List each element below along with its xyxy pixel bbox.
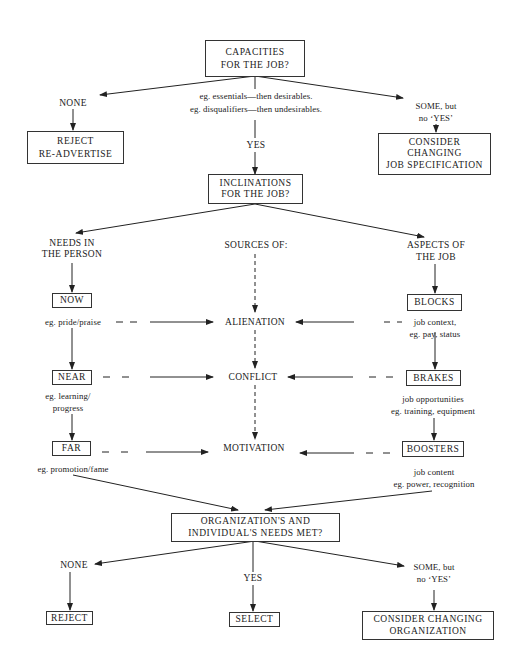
capacities-line1: CAPACITIES bbox=[206, 46, 304, 59]
aspects-header-line1: ASPECTS OF bbox=[407, 240, 465, 252]
reject-label: REJECT bbox=[28, 135, 123, 148]
aspect-boosters-example-2: eg. power, recognition bbox=[394, 478, 475, 491]
aspect-brakes-example-1: job opportunities bbox=[402, 393, 464, 406]
criteria-line1: eg. essentials—then desirables. bbox=[199, 90, 312, 103]
aspect-blocks-example-2: eg. pay, status bbox=[410, 328, 461, 341]
source-motivation: MOTIVATION bbox=[223, 442, 284, 455]
need-now-example: eg. pride/praise bbox=[45, 316, 101, 329]
need-near-example-2: progress bbox=[53, 402, 84, 415]
capacities-line2: FOR THE JOB? bbox=[206, 59, 304, 72]
reject-box: REJECT bbox=[46, 611, 93, 625]
need-far-example: eg. promotion/fame bbox=[37, 463, 108, 476]
aspect-brakes-box: BRAKES bbox=[406, 370, 461, 386]
inclinations-line2: FOR THE JOB? bbox=[209, 189, 302, 201]
job-specification-label: JOB SPECIFICATION bbox=[379, 160, 490, 172]
aspects-header-line2: THE JOB bbox=[407, 252, 465, 264]
needs-met-line1: ORGANIZATION'S AND bbox=[172, 516, 339, 528]
needs-header-line2: THE PERSON bbox=[42, 249, 102, 260]
needs-header: NEEDS IN THE PERSON bbox=[42, 238, 102, 260]
inclinations-question-box: INCLINATIONS FOR THE JOB? bbox=[208, 174, 303, 204]
need-near-example-1: eg. learning/ bbox=[45, 390, 90, 403]
stage1-some-line1: SOME, but bbox=[416, 100, 457, 113]
stage3-none-label: NONE bbox=[60, 559, 88, 572]
sources-header: SOURCES OF: bbox=[224, 239, 287, 252]
aspect-brakes-example-2: eg. training, equipment bbox=[391, 405, 475, 418]
capacities-question-box: CAPACITIES FOR THE JOB? bbox=[205, 40, 305, 77]
criteria-line2: eg. disqualifiers—then undesirables. bbox=[190, 103, 322, 116]
readvertise-label: RE-ADVERTISE bbox=[28, 148, 123, 161]
need-now-box: NOW bbox=[52, 293, 92, 308]
need-far-box: FAR bbox=[52, 441, 91, 456]
aspect-boosters-example-1: job content bbox=[414, 466, 454, 479]
needs-met-question-box: ORGANIZATION'S AND INDIVIDUAL'S NEEDS ME… bbox=[171, 513, 340, 542]
stage1-yes-label: YES bbox=[247, 139, 266, 152]
source-conflict: CONFLICT bbox=[229, 371, 278, 384]
consider-label: CONSIDER bbox=[379, 137, 490, 149]
aspect-blocks-example-1: job context, bbox=[414, 316, 457, 329]
stage1-some-line2: no ‘YES’ bbox=[419, 112, 453, 125]
select-box: SELECT bbox=[229, 612, 280, 627]
stage3-some-line2: no ‘YES’ bbox=[417, 573, 451, 586]
aspects-header: ASPECTS OF THE JOB bbox=[407, 240, 465, 263]
needs-met-line2: INDIVIDUAL'S NEEDS MET? bbox=[172, 528, 339, 540]
aspect-boosters-box: BOOSTERS bbox=[402, 441, 464, 457]
consider-changing-job-spec-box: CONSIDER CHANGING JOB SPECIFICATION bbox=[378, 133, 491, 175]
aspect-blocks-box: BLOCKS bbox=[407, 294, 462, 311]
need-near-box: NEAR bbox=[52, 370, 92, 385]
reject-readvertise-box: REJECT RE-ADVERTISE bbox=[27, 131, 124, 164]
stage1-none-label: NONE bbox=[59, 97, 87, 110]
needs-header-line1: NEEDS IN bbox=[42, 238, 102, 249]
inclinations-line1: INCLINATIONS bbox=[209, 178, 302, 190]
source-alienation: ALIENATION bbox=[225, 316, 285, 329]
changing-label: CHANGING bbox=[379, 148, 490, 160]
consider-changing-label: CONSIDER CHANGING bbox=[363, 614, 493, 626]
stage3-some-line1: SOME, but bbox=[414, 561, 455, 574]
stage3-yes-label: YES bbox=[244, 572, 263, 585]
consider-changing-organization-box: CONSIDER CHANGING ORGANIZATION bbox=[362, 611, 494, 640]
organization-label: ORGANIZATION bbox=[363, 626, 493, 638]
